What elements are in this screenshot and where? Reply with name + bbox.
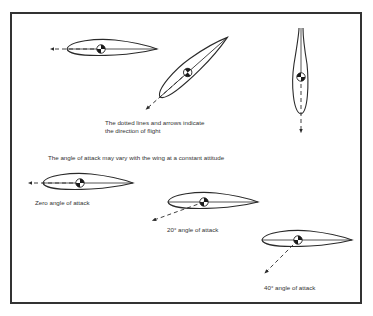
airfoil-zero-aoa — [30, 173, 133, 189]
flight-caption-line2: the direction of flight — [105, 127, 204, 135]
label-zero-aoa: Zero angle of attack — [35, 199, 90, 207]
airfoil-20-aoa — [154, 192, 258, 220]
airfoil-diagonal-flight — [141, 30, 232, 113]
label-20-aoa: 20° angle of attack — [167, 226, 218, 234]
airfoil-vertical-flight — [293, 28, 308, 131]
attitude-caption: The angle of attack may vary with the wi… — [48, 154, 224, 162]
label-40-aoa: 40° angle of attack — [264, 284, 315, 292]
flight-caption-line1: The dotted lines and arrows indicate — [105, 119, 204, 127]
airfoil-level-flight — [52, 39, 157, 55]
flight-direction-caption: The dotted lines and arrows indicate the… — [105, 119, 204, 136]
airfoil-40-aoa — [262, 230, 352, 272]
